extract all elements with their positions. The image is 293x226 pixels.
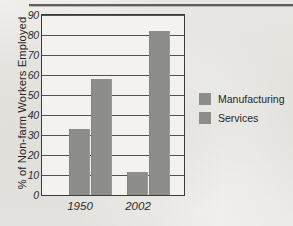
bar-1950-manufacturing bbox=[69, 129, 90, 195]
legend-label: Manufacturing bbox=[218, 93, 285, 105]
y-tick-label: 50 bbox=[9, 90, 39, 101]
chart-legend: Manufacturing Services bbox=[199, 93, 291, 131]
legend-item-services: Services bbox=[199, 112, 291, 124]
gridline-90 bbox=[42, 15, 184, 16]
y-tick-label: 0 bbox=[9, 190, 39, 201]
bar-1950-services bbox=[91, 79, 112, 195]
bar-2002-manufacturing bbox=[127, 172, 148, 195]
y-tick-label: 30 bbox=[9, 130, 39, 141]
y-axis-tick-labels: 90 80 70 60 50 40 30 20 10 0 bbox=[5, 14, 39, 196]
y-tick-label: 40 bbox=[9, 110, 39, 121]
legend-label: Services bbox=[218, 112, 258, 124]
y-tick-label: 60 bbox=[9, 70, 39, 81]
bar-2002-services bbox=[149, 31, 170, 195]
x-tick-label-1950: 1950 bbox=[53, 200, 107, 212]
legend-item-manufacturing: Manufacturing bbox=[199, 93, 291, 105]
bar-chart: % of Non-farm Workers Employed 90 80 70 … bbox=[0, 0, 293, 226]
y-tick-label: 20 bbox=[9, 150, 39, 161]
legend-swatch-icon bbox=[199, 112, 211, 124]
x-tick-label-2002: 2002 bbox=[111, 200, 165, 212]
y-tick-label: 70 bbox=[9, 50, 39, 61]
y-tick-label: 90 bbox=[9, 10, 39, 21]
legend-swatch-icon bbox=[199, 93, 211, 105]
y-tick-label: 80 bbox=[9, 30, 39, 41]
y-tick-label: 10 bbox=[9, 170, 39, 181]
plot-area bbox=[41, 14, 185, 196]
